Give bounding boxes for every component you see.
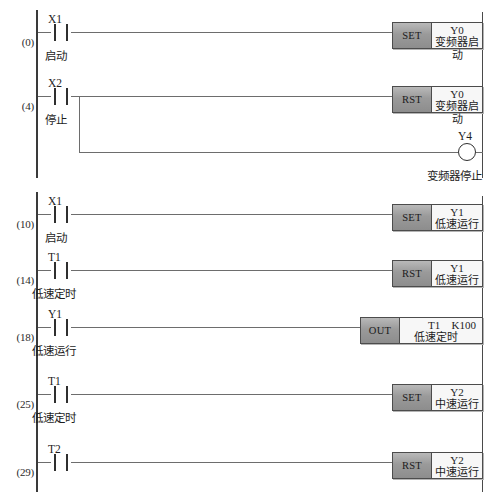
- block-opcode-set-2: SET: [393, 205, 432, 230]
- block-comment-6: 中速运行: [432, 466, 482, 479]
- instruction-block-set-y1[interactable]: SET Y1 低速运行: [392, 204, 483, 231]
- block-device-6: Y2: [432, 454, 482, 466]
- coil-device-label-y4: Y4: [458, 130, 472, 142]
- contact-comment-1: 停止: [45, 111, 67, 127]
- contact-y1-rung18[interactable]: [51, 319, 71, 336]
- left-power-rail-segment-upper: [36, 10, 38, 178]
- rung-wire-1-b: [71, 96, 393, 97]
- block-comment-2: 低速运行: [432, 218, 482, 231]
- block-device-1: Y0: [432, 88, 482, 100]
- contact-t2-rung29[interactable]: [51, 454, 71, 471]
- contact-comment-3: 低速定时: [32, 285, 76, 301]
- step-number-6: (29): [2, 466, 34, 478]
- contact-t1-rung14[interactable]: [51, 262, 71, 279]
- rung-wire-3-a: [38, 270, 51, 271]
- block-body-4: T1 低速定时 K100: [400, 318, 482, 343]
- rung-wire-6-a: [38, 462, 51, 463]
- rung-wire-4-b: [71, 327, 361, 328]
- contact-comment-4: 低速运行: [32, 342, 76, 358]
- block-comment-4: 低速定时: [414, 331, 458, 344]
- contact-x1-rung0[interactable]: [51, 24, 71, 41]
- contact-comment-0: 启动: [45, 47, 67, 63]
- contact-comment-5: 低速定时: [32, 409, 76, 425]
- contact-x1-rung10[interactable]: [51, 206, 71, 223]
- branch-wire-rung4-to-coil: [79, 152, 458, 153]
- step-number-0: (0): [2, 36, 34, 48]
- rung-wire-0-a: [38, 32, 51, 33]
- step-number-2: (10): [2, 218, 34, 230]
- block-body-2: Y1 低速运行: [432, 205, 482, 230]
- block-device-5: Y2: [432, 386, 482, 398]
- rung-wire-3-b: [71, 270, 393, 271]
- coil-y4[interactable]: [458, 143, 476, 161]
- rung-wire-5-a: [38, 394, 51, 395]
- step-number-5: (25): [2, 398, 34, 410]
- block-device-2: Y1: [432, 206, 482, 218]
- block-body-5: Y2 中速运行: [432, 385, 482, 410]
- instruction-block-out-t1[interactable]: OUT T1 低速定时 K100: [360, 317, 483, 344]
- coil-comment-y4: 变频器停止: [427, 167, 482, 183]
- block-device-0: Y0: [432, 24, 482, 36]
- contact-t1-rung25[interactable]: [51, 386, 71, 403]
- block-body-1: Y0 变频器启动: [432, 87, 482, 112]
- instruction-block-rst-y1[interactable]: RST Y1 低速运行: [392, 260, 483, 287]
- block-body-6: Y2 中速运行: [432, 453, 482, 478]
- contact-x2-rung4[interactable]: [51, 88, 71, 105]
- branch-wire-coil-to-rail: [476, 152, 483, 153]
- right-power-rail-segment-lower: [482, 196, 483, 492]
- block-preset-value-4: K100: [452, 319, 476, 331]
- rung-wire-6-b: [71, 462, 393, 463]
- step-number-4: (18): [2, 331, 34, 343]
- instruction-block-set-y0[interactable]: SET Y0 变频器启动: [392, 22, 483, 49]
- block-comment-5: 中速运行: [432, 398, 482, 411]
- block-opcode-out-4: OUT: [361, 318, 400, 343]
- rung-wire-2-b: [71, 214, 393, 215]
- block-opcode-rst-1: RST: [393, 87, 432, 112]
- block-comment-1: 变频器启动: [432, 100, 482, 126]
- block-body-3: Y1 低速运行: [432, 261, 482, 286]
- block-body-0: Y0 变频器启动: [432, 23, 482, 48]
- block-comment-3: 低速运行: [432, 274, 482, 287]
- branch-vertical-wire-rung4: [79, 96, 80, 153]
- step-number-3: (14): [2, 274, 34, 286]
- instruction-block-set-y2[interactable]: SET Y2 中速运行: [392, 384, 483, 411]
- rung-wire-0-b: [71, 32, 393, 33]
- ladder-diagram-canvas: (0) X1 启动 SET Y0 变频器启动 (4) X2 停止 RST Y0 …: [0, 0, 500, 498]
- rung-wire-1-a: [38, 96, 51, 97]
- block-device-3: Y1: [432, 262, 482, 274]
- rung-wire-4-a: [38, 327, 51, 328]
- rung-wire-2-a: [38, 214, 51, 215]
- step-number-1: (4): [2, 100, 34, 112]
- rung-wire-5-b: [71, 394, 393, 395]
- instruction-block-rst-y0[interactable]: RST Y0 变频器启动: [392, 86, 483, 113]
- instruction-block-rst-y2[interactable]: RST Y2 中速运行: [392, 452, 483, 479]
- block-opcode-set-5: SET: [393, 385, 432, 410]
- block-comment-0: 变频器启动: [432, 36, 482, 62]
- contact-comment-2: 启动: [45, 229, 67, 245]
- block-opcode-set-0: SET: [393, 23, 432, 48]
- block-device-4: T1: [428, 319, 440, 331]
- block-opcode-rst-3: RST: [393, 261, 432, 286]
- block-opcode-rst-6: RST: [393, 453, 432, 478]
